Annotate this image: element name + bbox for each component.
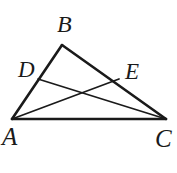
- vertex-label-C: C: [155, 126, 172, 151]
- vertex-label-E: E: [125, 60, 139, 83]
- vertex-label-B: B: [57, 12, 72, 36]
- triangle-diagram-canvas: [0, 0, 177, 173]
- geometry-figure: B D E A C: [0, 0, 177, 173]
- segment-side-BC: [62, 45, 166, 119]
- vertex-label-A: A: [2, 124, 17, 149]
- vertex-label-D: D: [18, 58, 35, 81]
